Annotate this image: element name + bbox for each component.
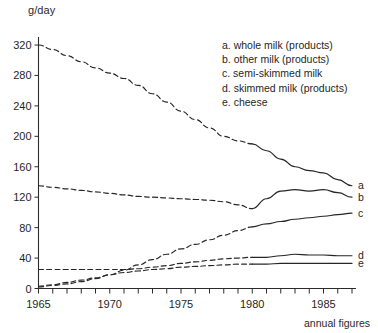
series-line-c-solid <box>252 213 352 227</box>
series-end-label-b: b <box>358 191 364 203</box>
series-line-c <box>39 227 253 287</box>
series-end-label-c: c <box>358 207 363 219</box>
series-line-b-solid <box>252 190 352 209</box>
y-axis-tick-label: 240 <box>13 100 31 112</box>
x-axis-tick-label: 1985 <box>311 298 335 310</box>
x-axis: 19651970197519801985 <box>26 289 356 310</box>
series-line-a <box>39 45 253 144</box>
series-end-label-e: e <box>358 257 364 269</box>
chart-series-lines <box>39 45 353 287</box>
chart-canvas: 04080120160200240280320 1965197019751980… <box>0 0 378 333</box>
series-line-d-solid <box>252 254 352 257</box>
x-axis-tick-label: 1980 <box>240 298 264 310</box>
series-line-e-solid <box>252 263 352 264</box>
y-axis-tick-label: 160 <box>13 161 31 173</box>
series-end-label-a: a <box>358 179 364 191</box>
y-axis-tick-label: 40 <box>19 252 31 264</box>
series-line-d <box>39 257 253 269</box>
y-axis-tick-label: 280 <box>13 69 31 81</box>
y-axis-tick-label: 80 <box>19 222 31 234</box>
y-axis-tick-label: 200 <box>13 130 31 142</box>
series-line-a-solid <box>252 144 352 186</box>
y-axis-tick-label: 120 <box>13 191 31 203</box>
series-line-b <box>39 186 253 209</box>
x-axis-tick-label: 1965 <box>26 298 50 310</box>
x-axis-tick-label: 1975 <box>169 298 193 310</box>
y-axis: 04080120160200240280320 <box>13 37 38 295</box>
y-axis-tick-label: 320 <box>13 39 31 51</box>
chart-footnote: annual figures <box>304 317 370 329</box>
x-axis-tick-label: 1970 <box>98 298 122 310</box>
series-end-labels: abcde <box>358 179 364 269</box>
y-axis-tick-label: 0 <box>25 283 31 295</box>
